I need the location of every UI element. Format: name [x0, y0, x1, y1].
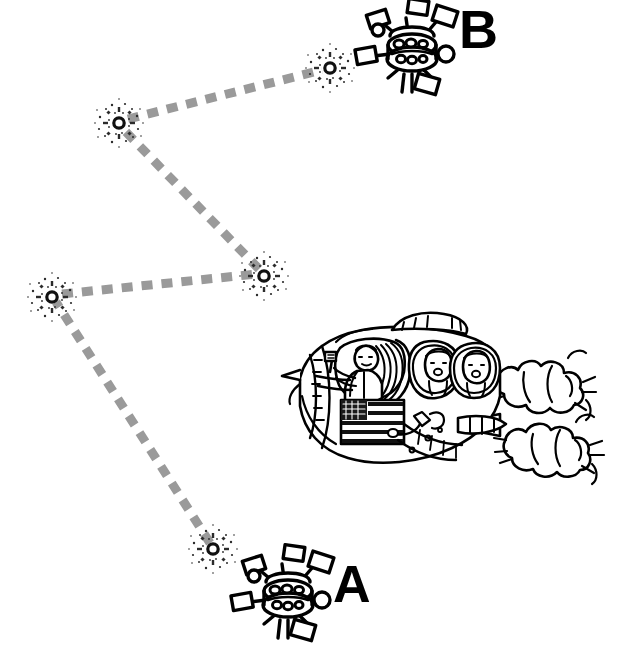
exhaust-cloud-upper: [486, 351, 596, 420]
passenger-window-2: [450, 343, 500, 398]
exhaust-cloud-lower: [494, 415, 604, 484]
illustration-canvas: B: [0, 0, 623, 657]
rocket-ship: [0, 0, 623, 657]
